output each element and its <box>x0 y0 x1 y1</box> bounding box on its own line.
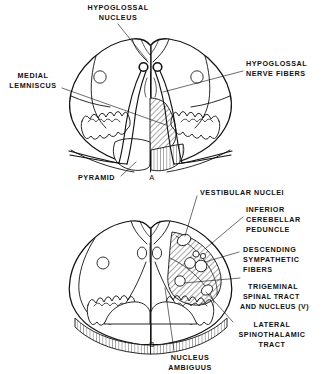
label-inferior-cerebellar-peduncle-line3: PEDUNCLE <box>246 225 290 234</box>
label-lateral-spinothalamic-line3: TRACT <box>258 340 285 349</box>
leader-inferior-cerebellar-peduncle-b <box>206 217 243 248</box>
label-hypoglossal-nerve-fibers-line1: HYPOGLOSSAL <box>246 59 307 68</box>
label-pyramid: PYRAMID <box>78 173 115 182</box>
panel-b-group: VESTIBULAR NUCLEI INFERIOR CEREBELLAR PE… <box>69 188 309 372</box>
trigeminal-spinal-nucleus-b <box>175 276 185 286</box>
hypoglossal-nucleus-a-left <box>139 63 148 72</box>
panel-letter-b: B <box>149 340 154 349</box>
hypoglossal-nucleus-a-right <box>153 63 162 72</box>
sympathetic-fiber-circle-b-1 <box>185 258 196 269</box>
label-descending-sympathetic-fibers-line1: DESCENDING <box>243 245 296 254</box>
midline-nucleus-b-left <box>137 247 146 259</box>
dorsal-nucleus-circle-a-left <box>94 71 106 83</box>
panel-letter-a: A <box>149 173 154 182</box>
label-trigeminal-line2: SPINAL TRACT <box>243 293 300 300</box>
label-trigeminal-line3: AND NUCLEUS (V) <box>240 303 309 311</box>
label-medial-lemniscus-line1: MEDIAL <box>18 71 49 80</box>
anatomy-figure: HYPOGLOSSAL NUCLEUS MEDIAL LEMNISCUS HYP… <box>0 0 325 374</box>
label-lateral-spinothalamic-line2: SPINOTHALAMIC <box>238 330 305 339</box>
sympathetic-fiber-circle-b-3 <box>193 251 199 257</box>
label-hypoglossal-nerve-fibers-line2: NERVE FIBERS <box>246 69 306 78</box>
dorsolateral-hatched-region-b <box>168 232 221 305</box>
label-hypoglossal-nucleus-line2: NUCLEUS <box>99 13 138 22</box>
midline-nucleus-b-right <box>152 247 161 259</box>
label-descending-sympathetic-fibers-line3: FIBERS <box>243 265 273 274</box>
label-trigeminal-line1: TRIGEMINAL <box>248 282 298 291</box>
medulla-cross-section-diagram: HYPOGLOSSAL NUCLEUS MEDIAL LEMNISCUS HYP… <box>0 0 325 374</box>
label-hypoglossal-nucleus-line1: HYPOGLOSSAL <box>87 3 148 12</box>
label-lateral-spinothalamic-line1: LATERAL <box>254 320 291 329</box>
label-nucleus-ambiguus-line2: AMBIGUUS <box>168 363 212 372</box>
panel-a-group: HYPOGLOSSAL NUCLEUS MEDIAL LEMNISCUS HYP… <box>9 3 307 182</box>
label-nucleus-ambiguus-line1: NUCLEUS <box>171 353 210 362</box>
label-vestibular-nuclei: VESTIBULAR NUCLEI <box>200 188 284 197</box>
label-inferior-cerebellar-peduncle-line2: CEREBELLAR <box>246 215 301 224</box>
sympathetic-fiber-circle-b-4 <box>200 253 205 258</box>
label-inferior-cerebellar-peduncle-line1: INFERIOR <box>246 205 285 214</box>
dorsal-nucleus-circle-b-left <box>97 257 109 269</box>
label-medial-lemniscus-line2: LEMNISCUS <box>9 81 56 90</box>
label-descending-sympathetic-fibers-line2: SYMPATHETIC <box>243 255 300 264</box>
dorsal-nucleus-circle-a-right <box>191 71 203 83</box>
